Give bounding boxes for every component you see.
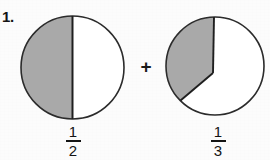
worksheet-problem: 1. + 1 2 xyxy=(0,0,270,160)
unshaded-half-region xyxy=(73,16,125,119)
fraction-denominator: 3 xyxy=(201,143,235,158)
circle-model-half xyxy=(21,16,124,119)
third-divider-line-upper xyxy=(213,17,214,73)
circle-model-third xyxy=(166,17,264,115)
fraction-one-half: 1 2 xyxy=(56,124,90,158)
fraction-denominator: 2 xyxy=(56,143,90,158)
plus-operator: + xyxy=(138,57,154,77)
shaded-half-region xyxy=(21,16,72,119)
fraction-one-third: 1 3 xyxy=(201,124,235,158)
fraction-numerator: 1 xyxy=(56,124,90,139)
fraction-numerator: 1 xyxy=(201,124,235,139)
